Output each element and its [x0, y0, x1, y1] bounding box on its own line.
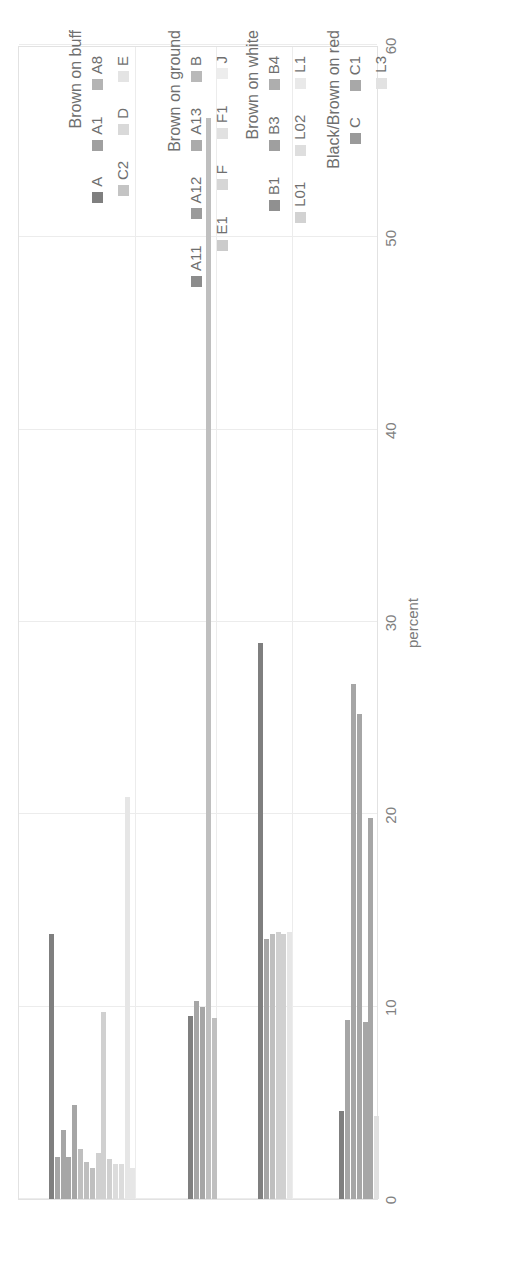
legend-item-D[interactable]: D [114, 108, 132, 135]
bar-brown-on-ground-A12-2 [200, 1007, 205, 1199]
legend-item-A1[interactable]: A1 [88, 116, 106, 150]
legend-label-L02: L02 [291, 115, 308, 140]
tick-label-50: 50 [382, 230, 399, 247]
legend-label-L1: L1 [291, 56, 308, 73]
legend-item-A11[interactable]: A11 [187, 245, 205, 287]
legend-swatch-icon-J [217, 69, 228, 80]
tick-label-30: 30 [382, 615, 399, 632]
legend-item-L1[interactable]: L1 [291, 56, 309, 89]
legend-label-E1: E1 [213, 216, 230, 234]
group-caption-buff: Brown on buff [67, 30, 85, 128]
legend-item-C1[interactable]: C1 [346, 56, 364, 91]
bar-brown-on-buff-A8-6 [84, 1162, 89, 1199]
bar-brown-on-white-B4-2 [270, 934, 275, 1199]
legend-swatch-icon-C2 [118, 185, 129, 196]
bar-brown-on-ground-A11-0 [188, 1016, 193, 1199]
bar-brown-on-buff-C2-9 [101, 1012, 106, 1199]
chart-figure: 0102030405060 percent Brown on buffBrown… [0, 0, 522, 1278]
legend-swatch-icon-E1 [217, 240, 228, 251]
legend-swatch-icon-C [350, 133, 361, 144]
legend-label-C2: C2 [114, 161, 131, 180]
gridline-20 [19, 813, 377, 814]
legend-swatch-icon-F1 [217, 128, 228, 139]
legend-label-F1: F1 [213, 106, 230, 124]
legend-swatch-icon-F [217, 179, 228, 190]
legend-swatch-icon-E [118, 71, 129, 82]
legend-label-A12: A12 [187, 177, 204, 204]
legend-item-L01[interactable]: L01 [291, 182, 309, 223]
legend-item-A8[interactable]: A8 [88, 56, 106, 90]
tick-label-0: 0 [382, 1196, 399, 1204]
legend-swatch-icon-B4 [269, 79, 280, 90]
bar-black-brown-on-red-C1-1 [345, 1020, 350, 1199]
legend-item-L02[interactable]: L02 [291, 115, 309, 156]
legend-item-B3[interactable]: B3 [265, 116, 283, 150]
percent-axis-ticks: 0102030405060 [382, 46, 404, 1200]
group-caption-red: Black/Brown on red [325, 30, 343, 169]
gridline-30 [19, 621, 377, 622]
legend-row-2: C2DE [114, 30, 132, 196]
tick-label-40: 40 [382, 422, 399, 439]
legend-swatch-icon-A11 [191, 276, 202, 287]
legend-swatch-icon-A8 [92, 79, 103, 90]
legend-row-1: CC1 [346, 30, 364, 144]
bar-brown-on-white-B3-1 [264, 939, 269, 1199]
legend-label-E: E [114, 56, 131, 66]
legend-swatch-icon-L01 [295, 212, 306, 223]
legend-row-2: L3 [372, 30, 390, 89]
legend-item-B4[interactable]: B4 [265, 56, 283, 90]
legend-item-A12[interactable]: A12 [187, 177, 205, 220]
group-caption-white: Brown on white [244, 30, 262, 139]
legend-row-1: A11A12A13B [187, 30, 205, 287]
legend-item-E1[interactable]: E1 [213, 216, 231, 250]
legend-swatch-icon-B3 [269, 140, 280, 151]
legend-label-B3: B3 [265, 116, 282, 134]
bar-brown-on-ground-A13-4 [212, 1018, 217, 1199]
bar-black-brown-on-red-C-0 [339, 1111, 344, 1199]
bar-brown-on-buff-A1-4 [72, 1105, 77, 1199]
bar-black-brown-on-red-C1-4 [363, 1022, 368, 1199]
bar-brown-on-white-L1-5 [287, 932, 292, 1199]
bar-brown-on-buff-A8-5 [78, 1149, 83, 1199]
legend-row-1: AA1A8 [88, 30, 106, 203]
bar-black-brown-on-red-C1-2 [351, 684, 356, 1199]
legend-swatch-icon-A [92, 192, 103, 203]
bar-brown-on-buff-A1-1 [55, 1157, 60, 1199]
bar-brown-on-buff-A1-3 [66, 1157, 71, 1199]
tick-label-20: 20 [382, 807, 399, 824]
legend-label-B1: B1 [265, 177, 282, 195]
legend-item-B1[interactable]: B1 [265, 177, 283, 211]
bar-brown-on-buff-E-14 [130, 1168, 135, 1199]
bar-brown-on-white-L01-3 [276, 932, 281, 1199]
legend-item-J[interactable]: J [213, 56, 231, 80]
legend-label-A1: A1 [88, 116, 105, 134]
legend-item-C[interactable]: C [346, 117, 364, 144]
legend-item-A13[interactable]: A13 [187, 108, 205, 151]
legend-swatch-icon-D [118, 124, 129, 135]
legend-label-D: D [114, 108, 131, 119]
legend-label-L3: L3 [372, 56, 389, 73]
legend-row-2: L01L02L1 [291, 30, 309, 223]
legend-swatch-icon-L3 [376, 78, 387, 89]
legend-swatch-icon-A1 [92, 140, 103, 151]
legend-item-A[interactable]: A [88, 177, 106, 203]
legend-swatch-icon-B [191, 71, 202, 82]
bar-brown-on-buff-A-0 [49, 934, 54, 1199]
legend-item-F[interactable]: F [213, 165, 231, 190]
legend-item-F1[interactable]: F1 [213, 106, 231, 140]
bar-brown-on-buff-C2-10 [107, 1159, 112, 1199]
legend-item-E[interactable]: E [114, 56, 132, 82]
legend-item-C2[interactable]: C2 [114, 161, 132, 196]
bar-brown-on-white-B1-0 [258, 643, 263, 1199]
legend-item-B[interactable]: B [187, 56, 205, 82]
legend-item-L3[interactable]: L3 [372, 56, 390, 89]
bar-brown-on-buff-D-12 [119, 1164, 124, 1199]
bar-black-brown-on-red-L3-6 [374, 1116, 379, 1199]
legend-label-A13: A13 [187, 108, 204, 135]
legend-row-2: E1FF1J [213, 30, 231, 251]
bar-black-brown-on-red-C1-3 [357, 714, 362, 1199]
legend-swatch-icon-C1 [350, 80, 361, 91]
group-caption-ground: Brown on ground [166, 30, 184, 152]
axis-title-percent: percent [404, 46, 421, 1200]
legend-label-F: F [213, 165, 230, 174]
